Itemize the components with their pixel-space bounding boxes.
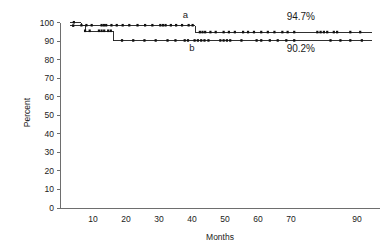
censor-mark-a [73, 21, 75, 24]
x-tick-label-70: 70 [286, 214, 296, 224]
censor-mark-b [98, 29, 100, 32]
censor-mark-a [170, 24, 172, 27]
censor-mark-a [242, 31, 244, 34]
censor-mark-a [260, 31, 262, 34]
censor-mark-a [128, 24, 130, 27]
censor-mark-a [326, 31, 328, 34]
censor-mark-a [349, 31, 351, 34]
y-tick-label-10: 10 [45, 184, 55, 194]
censor-mark-a [122, 24, 124, 27]
censor-mark-b [200, 39, 202, 42]
censor-mark-b [269, 39, 271, 42]
series-label-b: b [189, 42, 194, 53]
censor-mark-a [267, 31, 269, 34]
censor-mark-b [285, 39, 287, 42]
censor-mark-b [110, 29, 112, 32]
censor-mark-b [240, 39, 242, 42]
censor-mark-b [166, 39, 168, 42]
censor-mark-b [256, 39, 258, 42]
y-tick-label-100: 100 [40, 18, 54, 28]
x-tick-label-40: 40 [187, 214, 197, 224]
censor-mark-b [103, 29, 105, 32]
y-tick-label-50: 50 [45, 110, 55, 120]
censor-mark-a [287, 31, 289, 34]
censor-mark-b [349, 39, 351, 42]
censor-mark-b [143, 39, 145, 42]
censor-mark-a [234, 31, 236, 34]
censor-mark-a [323, 31, 325, 34]
censor-mark-a [273, 31, 275, 34]
censor-mark-b [100, 29, 102, 32]
censor-mark-a [181, 24, 183, 27]
end-label-b: 90.2% [287, 43, 315, 54]
censor-mark-b [361, 39, 363, 42]
censor-mark-a [175, 24, 177, 27]
censor-mark-b [174, 39, 176, 42]
censor-mark-a [144, 24, 146, 27]
censor-mark-a [199, 31, 201, 34]
censor-mark-b [207, 39, 209, 42]
censor-mark-b [229, 39, 231, 42]
censor-mark-a [151, 24, 153, 27]
censor-mark-a [85, 24, 87, 27]
censor-mark-a [164, 24, 166, 27]
censor-mark-a [253, 31, 255, 34]
censor-mark-a [136, 24, 138, 27]
censor-mark-a [103, 24, 105, 27]
censor-mark-a [91, 24, 93, 27]
censor-mark-a [100, 24, 102, 27]
censor-mark-a [159, 24, 161, 27]
censor-mark-a [201, 31, 203, 34]
y-tick-label-20: 20 [45, 166, 55, 176]
y-tick-label-70: 70 [45, 73, 55, 83]
censor-mark-b [223, 39, 225, 42]
censor-mark-a [105, 24, 107, 27]
censor-mark-b [89, 29, 91, 32]
y-tick-label-60: 60 [45, 92, 55, 102]
y-tick-label-90: 90 [45, 36, 55, 46]
x-axis-title: Months [206, 232, 234, 242]
censor-mark-a [336, 31, 338, 34]
y-tick-label-40: 40 [45, 129, 55, 139]
censor-mark-a [293, 31, 295, 34]
y-axis-title: Percent [22, 97, 32, 127]
censor-mark-b [219, 39, 221, 42]
x-tick-label-50: 50 [220, 214, 230, 224]
x-tick-label-30: 30 [154, 214, 164, 224]
censor-mark-a [204, 31, 206, 34]
series-label-a: a [183, 9, 189, 20]
censor-mark-b [121, 39, 123, 42]
chart-page: 01020304050607080901001020304050607090Mo… [0, 0, 386, 246]
x-tick-label-60: 60 [253, 214, 263, 224]
censor-mark-a [223, 31, 225, 34]
end-label-a: 94.7% [287, 11, 315, 22]
censor-mark-b [277, 39, 279, 42]
censor-mark-b [226, 39, 228, 42]
censor-mark-a [116, 24, 118, 27]
censor-mark-b [197, 39, 199, 42]
y-tick-label-30: 30 [45, 147, 55, 157]
censor-mark-b [203, 39, 205, 42]
censor-mark-a [162, 24, 164, 27]
x-tick-label-90: 90 [352, 214, 362, 224]
censor-mark-b [260, 39, 262, 42]
censor-mark-a [192, 24, 194, 27]
censor-mark-b [293, 39, 295, 42]
censor-mark-b [339, 39, 341, 42]
x-tick-label-20: 20 [121, 214, 131, 224]
x-tick-label-10: 10 [88, 214, 98, 224]
censor-mark-b [329, 39, 331, 42]
censor-mark-b [84, 29, 86, 32]
censor-mark-a [215, 31, 217, 34]
censor-mark-a [316, 31, 318, 34]
censor-mark-a [359, 31, 361, 34]
censor-mark-a [247, 31, 249, 34]
censor-mark-a [110, 24, 112, 27]
censor-mark-a [209, 31, 211, 34]
censor-mark-b [132, 39, 134, 42]
censor-mark-a [188, 24, 190, 27]
censor-mark-b [107, 29, 109, 32]
censor-mark-b [72, 24, 74, 27]
censor-mark-a [281, 31, 283, 34]
y-tick-label-80: 80 [45, 55, 55, 65]
